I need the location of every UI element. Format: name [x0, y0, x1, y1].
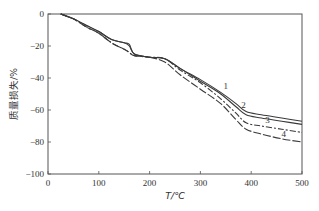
- curve-label-2: 2: [241, 100, 246, 110]
- y-tick-label: −60: [30, 105, 45, 115]
- y-tick-label: −20: [30, 41, 45, 51]
- y-axis-ticks: 0−20−40−60−80−100: [25, 9, 51, 179]
- x-tick-label: 300: [194, 178, 208, 188]
- y-tick-label: −100: [25, 169, 44, 179]
- x-tick-label: 400: [244, 178, 258, 188]
- tga-chart: 0−20−40−60−80−100 0100200300400500 1234 …: [0, 0, 319, 211]
- curve-label-3: 3: [265, 115, 270, 125]
- x-tick-label: 500: [295, 178, 309, 188]
- y-tick-label: −40: [30, 73, 45, 83]
- y-tick-label: 0: [40, 9, 45, 19]
- y-axis-title: 质量损失/%: [8, 68, 19, 120]
- plot-frame: [48, 14, 302, 174]
- curve-label-4: 4: [281, 129, 286, 139]
- y-tick-label: −80: [30, 137, 45, 147]
- x-tick-label: 100: [92, 178, 106, 188]
- x-tick-label: 0: [46, 178, 51, 188]
- curve-label-1: 1: [224, 81, 229, 91]
- x-tick-label: 200: [143, 178, 157, 188]
- x-axis-title: T/℃: [165, 190, 185, 201]
- plot-border: [48, 14, 302, 174]
- curve-2: [61, 14, 302, 124]
